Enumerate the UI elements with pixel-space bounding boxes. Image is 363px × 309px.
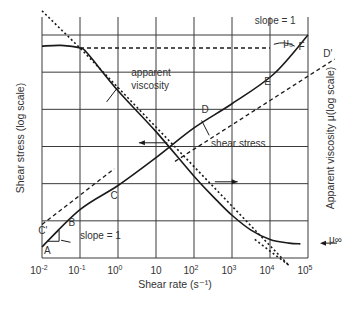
- annotation-label: D: [202, 104, 209, 115]
- annotation-label: F: [299, 41, 305, 52]
- annotation-label: E: [264, 76, 271, 87]
- annotation-label: C: [110, 190, 117, 201]
- annotation-label: μ₀: [283, 37, 293, 48]
- viscosity-pointer: [107, 87, 118, 102]
- grid: [42, 17, 308, 258]
- series-shear-stress: [42, 35, 308, 247]
- annotation-label: apparent: [131, 67, 171, 78]
- annotation-label: slope = 1: [80, 230, 121, 241]
- x-tick-label: 10-1: [68, 264, 85, 276]
- series-layer: [42, 11, 335, 266]
- x-tick-label: 104: [259, 264, 274, 276]
- shear-stress-pointer: [202, 120, 210, 135]
- viscosity-asymptote-tail: [255, 239, 289, 265]
- series-c-c-tangent: [42, 169, 114, 225]
- annotation-label: C': [38, 225, 47, 236]
- annotation-label: A: [44, 245, 51, 256]
- x-ticks: 10-210-110010102103104105: [30, 264, 312, 276]
- annotation-label: D': [323, 48, 332, 59]
- annotation-label: B: [69, 217, 76, 228]
- x-tick-label: 100: [107, 264, 122, 276]
- annotation-label: shear stress: [211, 138, 265, 149]
- shear-thinning-diagram: Shear rate (s⁻¹) Shear stress (log scale…: [0, 0, 363, 309]
- x-tick-label: 102: [183, 264, 198, 276]
- arrow-left-head: [139, 140, 145, 145]
- x-tick-exponent: -1: [79, 264, 85, 271]
- x-tick-exponent: 4: [271, 264, 275, 271]
- x-tick-label: 103: [221, 264, 236, 276]
- x-axis-label: Shear rate (s⁻¹): [138, 278, 212, 290]
- annotation-label: viscosity: [131, 80, 169, 91]
- annotation-label: slope = 1: [255, 15, 296, 26]
- y-axis-label-right: Apparent viscosity μ(log scale): [324, 67, 336, 210]
- x-tick-exponent: 5: [309, 264, 313, 271]
- x-tick-exponent: 3: [233, 264, 237, 271]
- x-tick-exponent: 2: [195, 264, 199, 271]
- x-tick-exponent: -2: [41, 264, 47, 271]
- y-axis-label-left: Shear stress (log scale): [14, 83, 26, 193]
- x-tick-exponent: 0: [119, 264, 123, 271]
- slope-pointer: [61, 240, 70, 242]
- x-tick-label: 10-2: [30, 264, 47, 276]
- mu-inf-arrow-head: [320, 241, 326, 246]
- annotations: ABCC'DD'EFslope = 1slope = 1apparentvisc…: [38, 15, 342, 256]
- annotation-label: μ∞: [329, 234, 342, 245]
- slope-triangle: [48, 230, 59, 241]
- x-tick-label: 105: [297, 264, 312, 276]
- x-tick-label: 10: [150, 265, 162, 276]
